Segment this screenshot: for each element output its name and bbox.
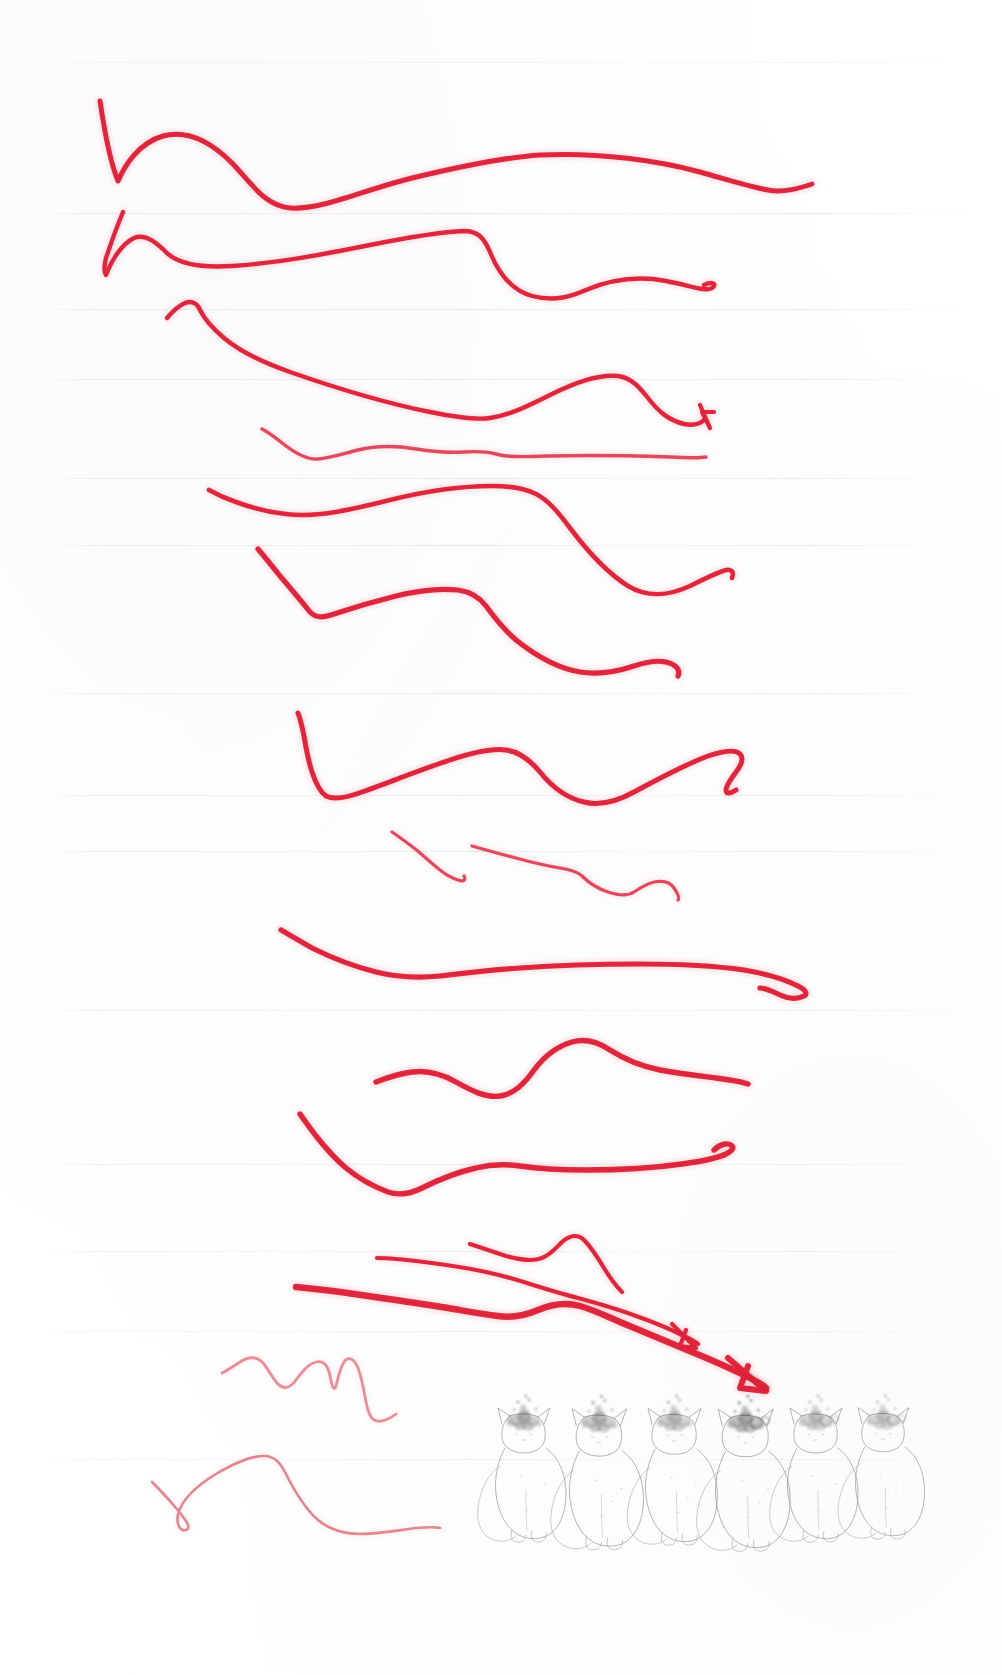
scanned-page: Scanned notebook page with red ink strok… [0, 0, 1002, 1675]
pencil-smudge [657, 1395, 693, 1432]
cat-sketch [478, 1395, 566, 1543]
cat-sketch [627, 1395, 717, 1546]
cat-sketch [697, 1395, 791, 1552]
pencil-smudge [507, 1395, 543, 1431]
pencil-smudge [727, 1395, 769, 1433]
cat-sketch [838, 1394, 925, 1539]
pencil-smudge [799, 1395, 839, 1431]
cat-sketch [551, 1395, 644, 1550]
pencil-smudge [866, 1394, 905, 1429]
pencil-smudge [581, 1395, 618, 1433]
pencil-cat-sketch-layer [0, 0, 1002, 1675]
